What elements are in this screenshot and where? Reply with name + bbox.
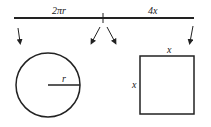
right-segment-label: 4x (148, 5, 158, 16)
square-left-label: x (131, 79, 137, 90)
square-shape (140, 56, 194, 114)
arrow-icon (92, 27, 100, 42)
arrow-icon (107, 27, 115, 42)
arrow-icon (18, 28, 20, 42)
arrow-icon (190, 26, 193, 42)
diagram-canvas: 2πr 4x r x x (0, 0, 211, 127)
left-segment-label: 2πr (52, 5, 66, 16)
radius-label: r (62, 73, 66, 84)
square-top-label: x (166, 44, 172, 55)
wire-diagram: 2πr 4x r x x (0, 0, 211, 127)
